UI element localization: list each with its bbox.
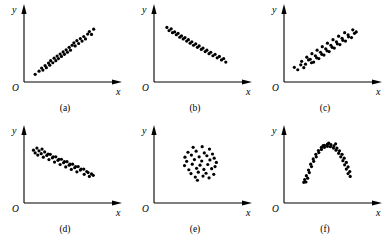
data-point [322,144,325,147]
data-point [335,146,338,149]
data-point [68,46,71,49]
data-point [215,161,218,164]
data-point [79,169,82,172]
data-point [328,50,331,53]
scatter-panel-b: yxO(b) [130,0,260,121]
data-point [344,39,347,42]
data-point [197,171,200,174]
origin-label-f: O [272,205,279,215]
data-point [186,151,189,154]
data-point [213,165,216,168]
x-axis-label-a: x [116,87,120,97]
data-point [333,46,336,49]
x-axis-label-b: x [246,87,250,97]
data-point [316,49,319,52]
data-point-group-f [302,142,352,184]
data-point [340,153,343,156]
data-point [187,38,190,41]
data-point [205,154,208,157]
x-axis-arrowhead-f [372,200,382,205]
data-point [57,57,60,60]
data-point [84,37,87,40]
data-point [90,33,93,36]
data-point [92,28,95,31]
y-axis-arrowhead-d [21,125,26,135]
data-point [355,30,358,33]
data-point [312,157,315,160]
data-point [329,44,332,47]
data-point [203,151,206,154]
origin-label-c: O [272,84,279,94]
data-point [48,64,51,67]
data-point [82,167,85,170]
data-point [195,167,198,170]
data-point [198,155,201,158]
y-axis-label-d: y [12,126,16,136]
panel-caption-a: (a) [0,104,130,114]
data-point [192,146,195,149]
data-point [343,157,346,160]
data-point [212,173,215,176]
panel-caption-e: (e) [130,225,260,235]
data-point [51,156,54,159]
data-point [187,168,190,171]
data-point [53,160,56,163]
data-point [165,26,168,29]
scatter-plot-figure-grid: yxO(a)yxO(b)yxO(c)yxO(d)yxO(e)yxO(f) [0,0,390,243]
data-point [300,60,303,63]
data-point [66,51,69,54]
data-point [204,172,207,175]
data-point [209,51,212,54]
y-axis-label-a: y [12,5,16,15]
data-point [86,171,89,174]
data-point [63,53,66,56]
scatter-panel-e: yxO(e) [130,121,260,243]
data-point [43,150,46,153]
data-point [201,174,204,177]
data-point [305,56,308,59]
data-point [54,155,57,158]
data-point [183,156,186,159]
data-point [54,59,57,62]
data-point [331,38,334,41]
data-point [350,36,353,39]
data-point [56,159,59,162]
data-point [201,46,204,49]
data-point [64,165,67,168]
data-point [42,156,45,159]
data-point-group-c [293,28,358,71]
data-point [334,142,337,145]
data-point [338,149,341,152]
data-point [200,159,203,162]
data-point [65,160,68,163]
data-point [37,149,40,152]
data-point [74,44,77,47]
data-point [34,73,37,76]
scatter-panel-a: yxO(a) [0,0,130,121]
data-point [302,181,305,184]
data-point [208,148,211,151]
data-point [340,37,343,40]
data-point [205,49,208,52]
data-point [213,53,216,56]
data-point [208,158,211,161]
data-point [180,34,183,37]
data-point [40,148,43,151]
panel-caption-c: (c) [260,104,390,114]
panel-caption-f: (f) [260,225,390,235]
data-point [351,28,354,31]
data-point [303,178,306,181]
scatter-panel-f: yxO(f) [260,121,390,243]
data-point [88,30,91,33]
data-point [62,161,65,164]
data-point [218,55,221,58]
data-point [198,164,201,167]
data-point-group-b [165,26,227,64]
y-axis-label-f: y [272,126,276,136]
origin-label-a: O [12,84,19,94]
data-point [307,169,310,172]
data-point [92,174,95,177]
data-point [346,33,349,36]
data-point [210,167,213,170]
data-point [189,172,192,175]
